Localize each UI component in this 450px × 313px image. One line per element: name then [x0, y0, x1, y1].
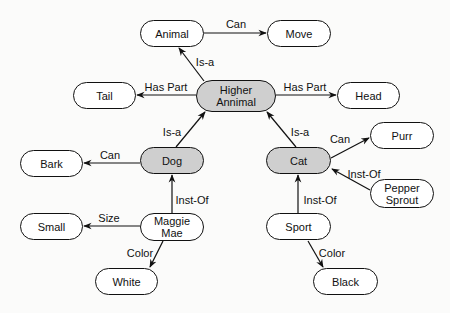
edge-label: Can	[330, 133, 350, 145]
edge-label: Inst-Of	[303, 194, 336, 206]
node-label: Head	[355, 90, 381, 102]
node-black: Black	[313, 268, 378, 295]
node-label: Dog	[162, 155, 182, 167]
node-move: Move	[267, 20, 331, 47]
node-bark: Bark	[20, 150, 83, 177]
node-label: Cat	[290, 155, 307, 167]
node-tail: Tail	[73, 82, 136, 109]
node-pepper-sprout: Pepper Sprout	[370, 179, 434, 208]
edge-label: Color	[319, 247, 345, 259]
node-label: Animal	[155, 28, 189, 40]
edge-label: Inst-Of	[347, 168, 380, 180]
node-head: Head	[337, 82, 400, 109]
node-animal: Animal	[140, 20, 204, 47]
node-purr: Purr	[370, 122, 434, 149]
node-dog: Dog	[140, 147, 204, 174]
node-label: Higher Annimal	[216, 84, 256, 108]
node-label: Maggie Mae	[154, 215, 190, 239]
node-label: Move	[286, 28, 313, 40]
edge-label: Color	[127, 247, 153, 259]
edge-label: Size	[98, 212, 119, 224]
node-label: Bark	[40, 158, 63, 170]
edge-label: Can	[100, 149, 120, 161]
node-label: Small	[38, 221, 66, 233]
node-maggie-mae: Maggie Mae	[140, 213, 204, 241]
node-cat: Cat	[266, 147, 331, 174]
edge-label: Is-a	[196, 56, 214, 68]
edge-label: Has Part	[284, 81, 327, 93]
node-label: Purr	[392, 130, 413, 142]
node-label: Sport	[285, 221, 311, 233]
node-label: Tail	[96, 90, 113, 102]
node-label: Pepper Sprout	[384, 182, 419, 206]
edge-label: Is-a	[163, 126, 181, 138]
node-label: White	[112, 276, 140, 288]
node-small: Small	[20, 213, 83, 240]
edge-label: Has Part	[145, 81, 188, 93]
node-white: White	[95, 268, 158, 295]
edge-label: Can	[226, 18, 246, 30]
node-label: Black	[332, 276, 359, 288]
edge-label: Is-a	[291, 126, 309, 138]
node-higher-animal: Higher Annimal	[196, 80, 276, 112]
node-sport: Sport	[266, 213, 331, 240]
edge-label: Inst-Of	[175, 194, 208, 206]
